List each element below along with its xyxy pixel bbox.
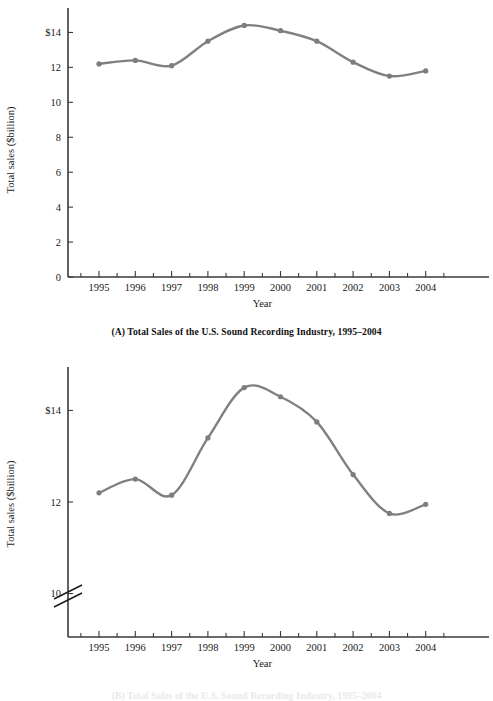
x-tick-label: 1998 xyxy=(197,642,218,653)
y-tick-label: 2 xyxy=(56,237,61,248)
y-tick-label: 4 xyxy=(56,202,62,213)
y-tick-label: $14 xyxy=(45,405,62,416)
x-tick-label: 2002 xyxy=(343,642,364,653)
data-point-marker xyxy=(133,58,138,63)
y-tick-label: 6 xyxy=(56,167,61,178)
x-tick-label: 2003 xyxy=(379,282,400,293)
data-point-marker xyxy=(278,394,283,399)
y-tick-label: 12 xyxy=(51,62,62,73)
x-axis-title: Year xyxy=(253,298,273,309)
x-tick-label: 1997 xyxy=(161,282,182,293)
data-point-marker xyxy=(423,502,428,507)
data-series-line xyxy=(99,385,426,514)
data-point-marker xyxy=(169,493,174,498)
data-point-marker xyxy=(242,23,247,28)
figure-a-caption: (A) Total Sales of the U.S. Sound Record… xyxy=(0,326,493,337)
data-point-marker xyxy=(351,60,356,65)
x-tick-label: 1998 xyxy=(197,282,218,293)
y-axis-title: Total sales ($billion) xyxy=(5,106,17,193)
data-point-marker xyxy=(351,472,356,477)
figure-b-total-sales-chart: 1012$14Total sales ($billion)19951996199… xyxy=(0,349,493,698)
x-tick-label: 1995 xyxy=(89,642,110,653)
figure-b-caption: (B) Total Sales of the U.S. Sound Record… xyxy=(0,690,493,701)
data-point-marker xyxy=(96,490,101,495)
y-tick-label: $14 xyxy=(45,27,62,38)
data-point-marker xyxy=(205,39,210,44)
chart-a-canvas: 024681012$14Total sales ($billion)199519… xyxy=(0,0,493,320)
x-tick-label: 2000 xyxy=(270,642,291,653)
data-point-marker xyxy=(278,28,283,33)
figure-a-total-sales-chart: 024681012$14Total sales ($billion)199519… xyxy=(0,0,493,349)
data-point-marker xyxy=(423,68,428,73)
x-tick-label: 1995 xyxy=(89,282,110,293)
x-tick-label: 1999 xyxy=(234,642,255,653)
y-tick-label: 0 xyxy=(56,272,61,283)
x-tick-label: 2004 xyxy=(415,642,437,653)
y-tick-label: 10 xyxy=(51,97,62,108)
x-tick-label: 2002 xyxy=(343,282,364,293)
data-point-marker xyxy=(242,385,247,390)
data-point-marker xyxy=(314,39,319,44)
data-point-marker xyxy=(133,477,138,482)
x-tick-label: 2000 xyxy=(270,282,291,293)
x-tick-label: 2001 xyxy=(306,642,327,653)
x-tick-label: 2003 xyxy=(379,642,400,653)
chart-b-canvas: 1012$14Total sales ($billion)19951996199… xyxy=(0,349,493,689)
x-tick-label: 1996 xyxy=(125,642,146,653)
data-point-marker xyxy=(387,511,392,516)
data-point-marker xyxy=(387,74,392,79)
y-tick-label: 12 xyxy=(51,497,62,508)
y-axis-title: Total sales ($billion) xyxy=(5,460,17,547)
x-tick-label: 2001 xyxy=(306,282,327,293)
x-tick-label: 1996 xyxy=(125,282,146,293)
data-point-marker xyxy=(314,419,319,424)
x-axis-title: Year xyxy=(253,658,273,669)
x-tick-label: 1997 xyxy=(161,642,182,653)
data-point-marker xyxy=(205,435,210,440)
data-point-marker xyxy=(169,63,174,68)
data-point-marker xyxy=(96,61,101,66)
y-tick-label: 8 xyxy=(56,132,61,143)
data-series-line xyxy=(99,25,426,76)
x-tick-label: 1999 xyxy=(234,282,255,293)
x-tick-label: 2004 xyxy=(415,282,437,293)
